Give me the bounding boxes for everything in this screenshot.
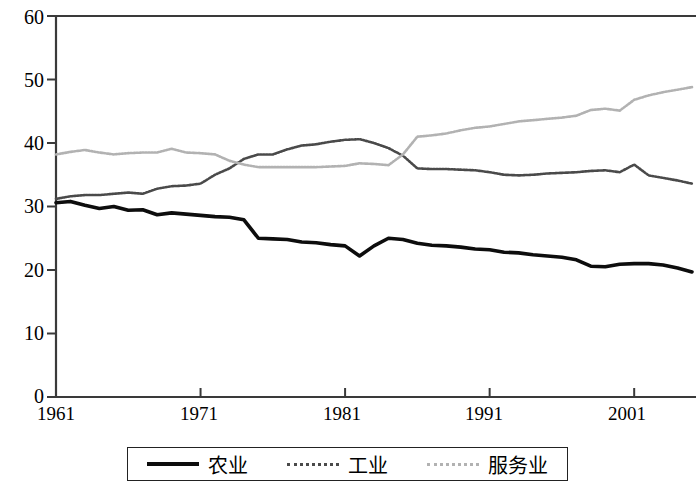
x-axis-ticks xyxy=(56,388,634,397)
legend-label-industry: 工业 xyxy=(348,450,388,479)
y-axis-label-30: 30 xyxy=(0,196,44,216)
y-axis-ticks xyxy=(47,16,56,397)
series-line-0 xyxy=(56,201,692,271)
legend-item-industry: 工业 xyxy=(287,450,388,479)
line-swatch-dotted-darkgray-icon xyxy=(287,463,339,466)
x-axis-label-1961: 1961 xyxy=(26,404,86,423)
line-swatch-solid-black-icon xyxy=(147,462,199,466)
y-axis-label-10: 10 xyxy=(0,323,44,343)
legend-label-services: 服务业 xyxy=(488,450,548,479)
y-axis-label-20: 20 xyxy=(0,260,44,280)
y-axis-label-60: 60 xyxy=(0,7,44,27)
x-axis-label-1981: 1981 xyxy=(312,404,372,423)
legend-item-services: 服务业 xyxy=(427,450,548,479)
series-line-1 xyxy=(56,139,692,199)
series-line-2 xyxy=(56,87,692,167)
y-axis-label-40: 40 xyxy=(0,133,44,153)
y-axis-label-50: 50 xyxy=(0,70,44,90)
data-series-layer xyxy=(56,87,692,272)
chart-legend: 农业 工业 服务业 xyxy=(127,447,568,481)
x-axis-label-2001: 2001 xyxy=(597,404,657,423)
legend-item-agriculture: 农业 xyxy=(147,450,248,479)
legend-label-agriculture: 农业 xyxy=(208,450,248,479)
line-swatch-dotted-lightgray-icon xyxy=(427,463,479,466)
x-axis-label-1971: 1971 xyxy=(169,404,229,423)
chart-container: 6050403020100 19611971198119912001 农业 工业… xyxy=(0,0,696,484)
x-axis-label-1991: 1991 xyxy=(454,404,514,423)
